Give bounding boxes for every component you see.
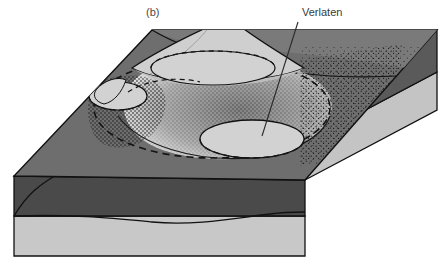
block-diagram-figure: (b) Verlaten: [0, 0, 446, 265]
verlaten-label: Verlaten: [302, 6, 342, 18]
block-front-face-dark-band: [14, 176, 305, 216]
panel-label: (b): [146, 6, 159, 18]
block-diagram-svg: [0, 0, 446, 265]
